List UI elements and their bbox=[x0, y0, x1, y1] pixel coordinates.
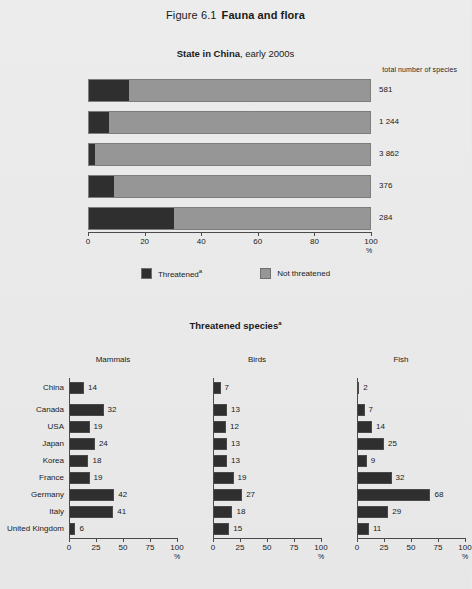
bar-value-label: 13 bbox=[231, 439, 240, 448]
x-axis-tick bbox=[69, 538, 70, 542]
x-axis-tick bbox=[177, 538, 178, 542]
panel-fish: 2714259326829110255075100% bbox=[357, 378, 465, 538]
x-axis-tick-label: 25 bbox=[236, 543, 245, 552]
country-label: Canada bbox=[0, 405, 64, 414]
upper-axis-unit: % bbox=[366, 247, 372, 254]
bar bbox=[69, 472, 90, 484]
x-axis-tick bbox=[145, 232, 146, 236]
upper-x-axis-line bbox=[88, 232, 371, 233]
x-axis-tick bbox=[267, 538, 268, 542]
bar-value-label: 32 bbox=[396, 473, 405, 482]
figure-title: Figure 6.1Fauna and flora bbox=[0, 9, 471, 21]
bar bbox=[69, 438, 95, 450]
total-species-header: total number of species bbox=[382, 66, 457, 73]
bar bbox=[213, 506, 232, 518]
bar-value-label: 14 bbox=[376, 422, 385, 431]
x-axis-tick bbox=[96, 538, 97, 542]
x-axis-tick-label: 75 bbox=[146, 543, 155, 552]
upper-chart-title-bold: State in China bbox=[177, 48, 240, 59]
bar bbox=[357, 523, 369, 535]
bar bbox=[69, 421, 90, 433]
bar-value-label: 7 bbox=[369, 405, 373, 414]
panel-title-birds: Birds bbox=[197, 355, 317, 364]
bar bbox=[213, 472, 234, 484]
x-axis-tick-label: 0 bbox=[355, 543, 359, 552]
country-label: United Kingdom bbox=[0, 524, 64, 533]
x-axis-tick-label: 25 bbox=[380, 543, 389, 552]
bar-value-label: 2 bbox=[363, 383, 367, 392]
bar bbox=[357, 404, 365, 416]
x-axis-tick-label: 0 bbox=[67, 543, 71, 552]
x-axis-tick-label: 50 bbox=[263, 543, 272, 552]
bar bbox=[357, 472, 392, 484]
stacked-bar-row bbox=[88, 79, 371, 102]
lower-chart-title: Threatened speciesa bbox=[0, 320, 471, 331]
figure-number: Figure 6.1 bbox=[166, 9, 217, 21]
country-label: China bbox=[0, 383, 64, 392]
x-axis-tick-label: 0 bbox=[211, 543, 215, 552]
upper-chart-title: State in China, early 2000s bbox=[0, 48, 471, 59]
x-axis-tick-label: 40 bbox=[197, 237, 206, 246]
upper-chart-title-rest: , early 2000s bbox=[240, 48, 294, 59]
panel-mammals: 143219241819424160255075100% bbox=[69, 378, 177, 538]
bar bbox=[213, 421, 226, 433]
x-axis-unit: % bbox=[462, 553, 468, 560]
total-species-value: 3 862 bbox=[379, 149, 399, 158]
x-axis-tick-label: 100 bbox=[458, 543, 471, 552]
bar-value-label: 41 bbox=[117, 507, 126, 516]
legend-swatch-not-threatened bbox=[260, 268, 271, 279]
bar-value-label: 25 bbox=[388, 439, 397, 448]
x-axis-tick bbox=[150, 538, 151, 542]
stacked-bar-threatened-segment bbox=[89, 208, 174, 229]
bar-value-label: 24 bbox=[99, 439, 108, 448]
x-axis-tick-label: 25 bbox=[92, 543, 101, 552]
x-axis-tick bbox=[465, 538, 466, 542]
x-axis-unit: % bbox=[174, 553, 180, 560]
x-axis-tick bbox=[201, 232, 202, 236]
bar-value-label: 13 bbox=[231, 456, 240, 465]
x-axis-tick bbox=[321, 538, 322, 542]
x-axis-tick-label: 75 bbox=[434, 543, 443, 552]
x-axis-tick bbox=[213, 538, 214, 542]
bar bbox=[69, 523, 75, 535]
bar bbox=[213, 382, 221, 394]
legend-label-threatened: Threateneda bbox=[158, 268, 202, 279]
x-axis-tick bbox=[294, 538, 295, 542]
bar bbox=[357, 506, 388, 518]
bar bbox=[213, 523, 229, 535]
stacked-bar-row bbox=[88, 175, 371, 198]
stacked-bar-threatened-segment bbox=[89, 112, 109, 133]
bar bbox=[357, 455, 367, 467]
figure-name: Fauna and flora bbox=[222, 9, 305, 21]
upper-stacked-bar-chart: Mammals581Birds1 244Fish3 862Reptiles376… bbox=[88, 79, 371, 232]
legend-label-not-threatened: Not threatened bbox=[277, 269, 330, 278]
stacked-bar-row bbox=[88, 111, 371, 134]
bar-value-label: 14 bbox=[88, 383, 97, 392]
panel-birds: 713121313192718150255075100% bbox=[213, 378, 321, 538]
x-axis-tick-label: 100 bbox=[364, 237, 377, 246]
bar-value-label: 19 bbox=[94, 473, 103, 482]
bar-value-label: 19 bbox=[238, 473, 247, 482]
total-species-value: 1 244 bbox=[379, 117, 399, 126]
x-axis-tick bbox=[371, 232, 372, 236]
x-axis-tick-label: 50 bbox=[119, 543, 128, 552]
bar-value-label: 29 bbox=[392, 507, 401, 516]
bar-value-label: 11 bbox=[373, 524, 381, 533]
legend-item-not-threatened: Not threatened bbox=[260, 268, 330, 279]
stacked-bar-threatened-segment bbox=[89, 144, 95, 165]
bar-value-label: 6 bbox=[79, 524, 83, 533]
bar bbox=[213, 489, 242, 501]
stacked-bar-threatened-segment bbox=[89, 80, 129, 101]
bar bbox=[213, 455, 227, 467]
legend-swatch-threatened bbox=[141, 268, 152, 279]
bar bbox=[357, 489, 430, 501]
country-label: USA bbox=[0, 422, 64, 431]
bar-value-label: 32 bbox=[108, 405, 117, 414]
x-axis-tick-label: 75 bbox=[290, 543, 299, 552]
country-label: Japan bbox=[0, 439, 64, 448]
bar bbox=[213, 438, 227, 450]
total-species-value: 284 bbox=[379, 213, 392, 222]
x-axis-tick bbox=[314, 232, 315, 236]
x-axis-tick-label: 20 bbox=[140, 237, 149, 246]
